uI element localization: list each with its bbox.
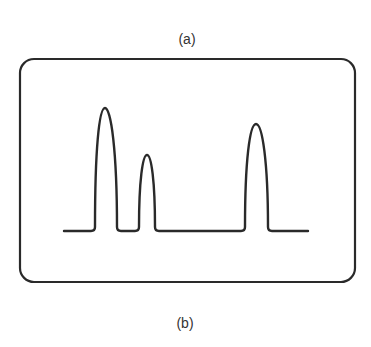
signal-trace — [64, 108, 308, 231]
panel-b-label: (b) — [165, 315, 205, 331]
display-frame — [20, 59, 355, 282]
chromatogram-diagram — [0, 0, 371, 347]
